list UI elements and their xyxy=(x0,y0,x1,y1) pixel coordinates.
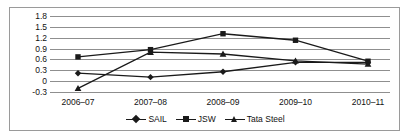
y-axis-tick-label: 1.8 xyxy=(35,12,47,20)
x-axis-tick-label: 2010–11 xyxy=(352,97,384,107)
triangle-marker-icon xyxy=(225,115,245,124)
diamond-marker-icon xyxy=(126,115,146,124)
legend-label: Tata Steel xyxy=(247,114,285,124)
data-point xyxy=(75,70,81,76)
series-layer xyxy=(50,16,390,92)
x-axis-tick-label: 2007–08 xyxy=(134,97,167,107)
legend-label: JSW xyxy=(198,114,216,124)
y-axis-tick-label: 0.9 xyxy=(35,45,47,53)
y-axis-tick-label: 1.5 xyxy=(35,23,47,31)
data-point xyxy=(147,74,153,80)
y-axis-tick-label: 1.2 xyxy=(35,34,47,42)
data-point xyxy=(220,69,226,75)
plot-area xyxy=(50,16,390,92)
x-axis: 2006–072007–082008–092009–102010–11 xyxy=(50,97,390,109)
legend-entry-jsw[interactable]: JSW xyxy=(176,114,216,124)
x-axis-tick-label: 2009–10 xyxy=(279,97,312,107)
data-point xyxy=(293,38,298,43)
y-axis-tick-label: -0.3 xyxy=(32,88,47,96)
y-axis-tick-label: 0.6 xyxy=(35,55,47,63)
data-point xyxy=(75,85,82,91)
legend-entry-sail[interactable]: SAIL xyxy=(126,114,166,124)
data-point xyxy=(220,31,225,36)
y-axis-tick-label: 0.3 xyxy=(35,66,47,74)
legend-entry-tata-steel[interactable]: Tata Steel xyxy=(225,114,285,124)
legend-marker xyxy=(183,116,189,122)
x-axis-tick-label: 2008–09 xyxy=(206,97,239,107)
y-axis-tick-label: 0 xyxy=(42,77,47,85)
x-axis-tick-label: 2006–07 xyxy=(61,97,94,107)
chart-frame: 1.81.51.20.90.60.30-0.3 2006–072007–0820… xyxy=(9,7,400,131)
chart-legend: SAILJSWTata Steel xyxy=(10,112,401,126)
legend-label: SAIL xyxy=(148,114,166,124)
data-point xyxy=(75,54,80,59)
series-jsw xyxy=(75,31,370,64)
series-line xyxy=(78,34,368,62)
y-axis: 1.81.51.20.90.60.30-0.3 xyxy=(18,16,47,92)
gridline xyxy=(50,92,390,93)
legend-marker xyxy=(132,115,140,123)
legend-marker xyxy=(231,116,237,122)
square-marker-icon xyxy=(176,115,196,124)
